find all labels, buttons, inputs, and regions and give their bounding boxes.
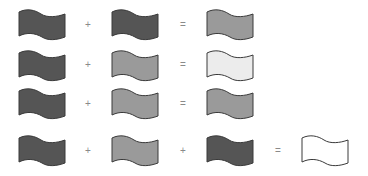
flag-medium [205,88,255,120]
plus-sign: + [82,98,94,110]
flag-white [300,135,350,167]
flag-medium [110,50,160,82]
plus-sign: + [82,59,94,71]
flag-medium [110,135,160,167]
equals-sign: = [177,19,189,31]
flag-medium [110,88,160,120]
equals-sign: = [177,59,189,71]
plus-sign: + [82,19,94,31]
flag-light [205,50,255,82]
flag-dark [17,88,67,120]
flag-dark [17,50,67,82]
equals-sign: = [177,98,189,110]
flag-dark [17,135,67,167]
flag-dark [110,9,160,41]
plus-sign: + [82,145,94,157]
equals-sign: = [272,145,284,157]
plus-sign: + [177,145,189,157]
flag-medium [205,9,255,41]
flag-dark [205,135,255,167]
flag-dark [17,9,67,41]
